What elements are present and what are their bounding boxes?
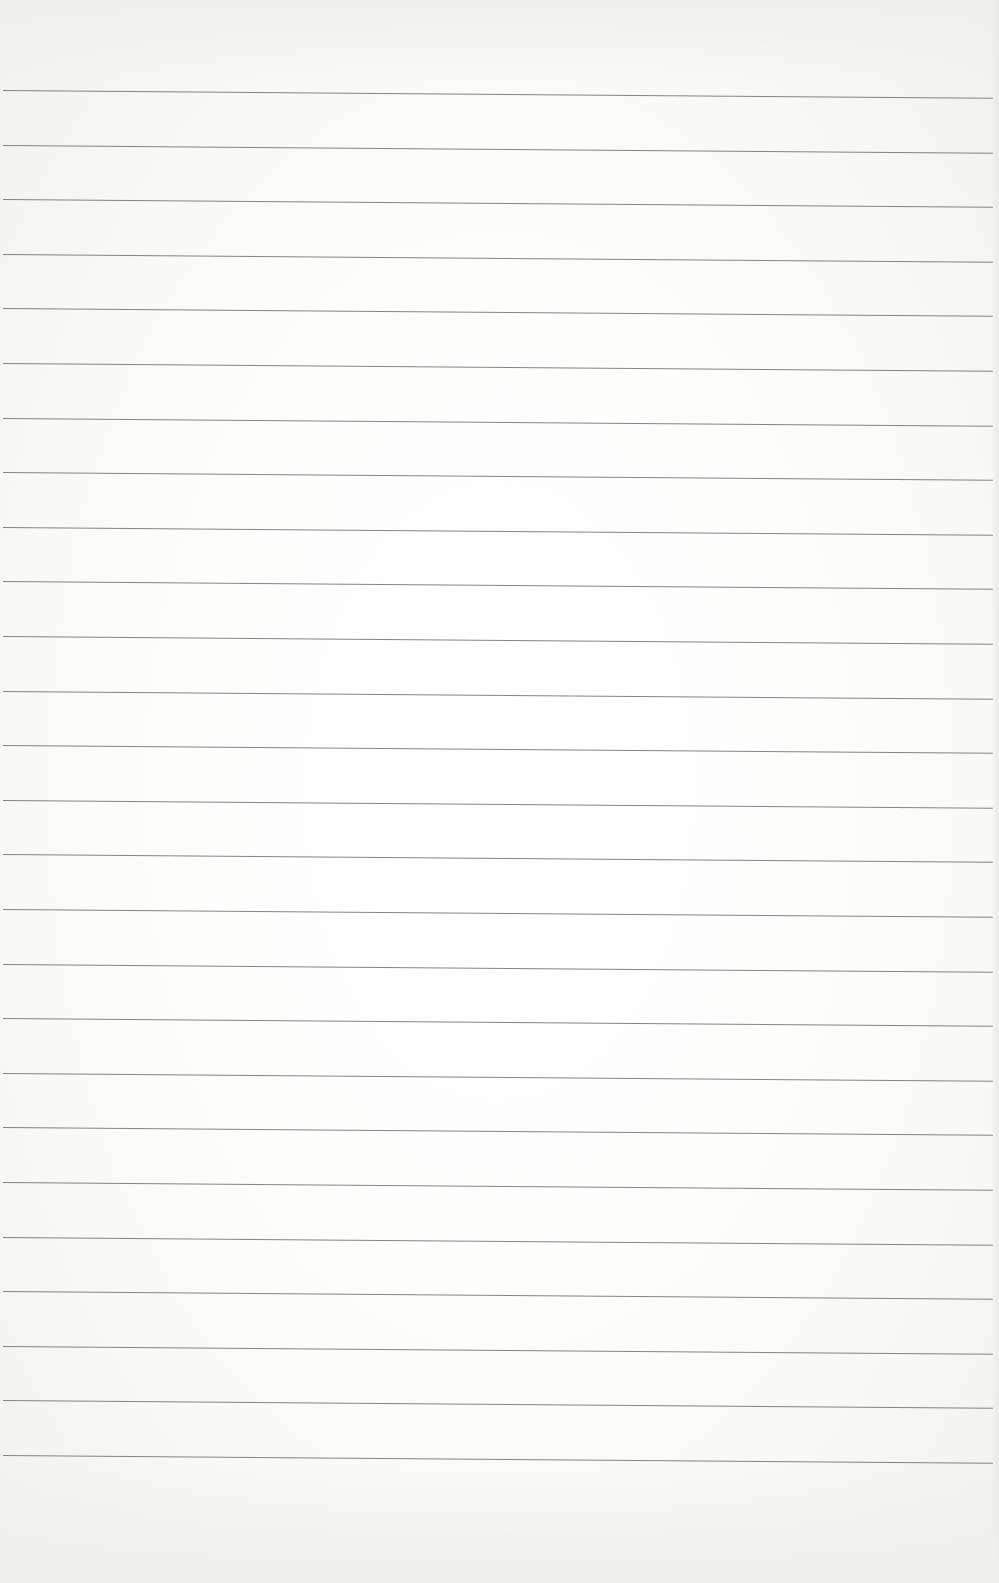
ruled-line [3, 1237, 993, 1246]
ruled-line [3, 145, 993, 154]
ruled-line [3, 472, 993, 481]
ruled-line [3, 1291, 993, 1300]
ruled-line [3, 581, 993, 590]
ruled-line [3, 1073, 993, 1082]
ruled-line [3, 199, 993, 208]
ruled-line [3, 1346, 993, 1355]
ruled-line [3, 1182, 993, 1191]
ruled-line [3, 1400, 993, 1409]
lined-paper-page [0, 0, 999, 1583]
ruled-line [3, 308, 993, 317]
paper-top-shading [0, 0, 999, 80]
ruled-line [3, 363, 993, 372]
ruled-line [3, 800, 993, 809]
ruled-line [3, 418, 993, 427]
ruled-line [3, 964, 993, 973]
ruled-line [3, 909, 993, 918]
ruled-line [3, 90, 993, 99]
ruled-line [3, 527, 993, 536]
ruled-line [3, 691, 993, 700]
ruled-line [3, 636, 993, 645]
paper-bottom-shading [0, 1463, 999, 1583]
ruled-line [3, 1127, 993, 1136]
paper-right-edge [991, 0, 999, 1583]
ruled-line [3, 854, 993, 863]
ruled-line [3, 1018, 993, 1027]
ruled-line [3, 254, 993, 263]
ruled-line [3, 745, 993, 754]
